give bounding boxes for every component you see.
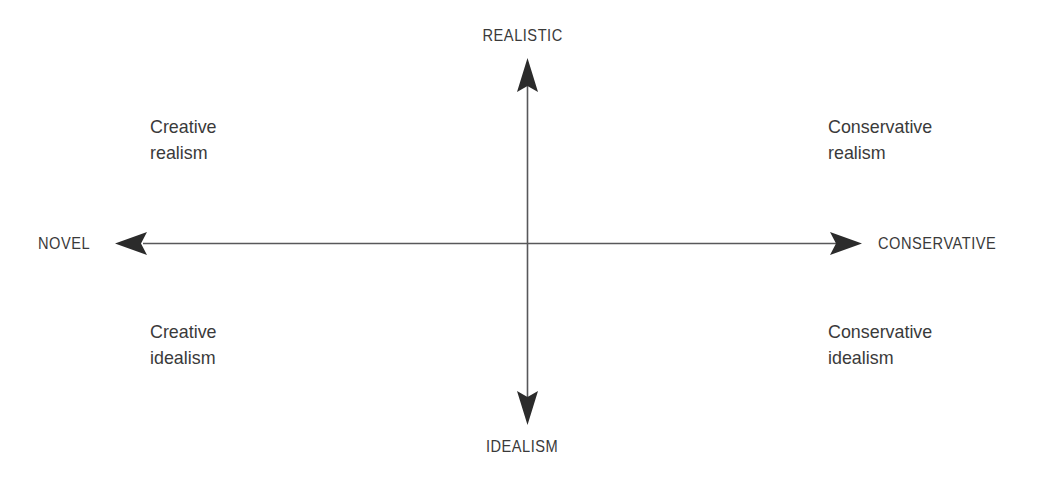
- left-arrowhead-icon: [115, 232, 147, 255]
- quadrant-label-line1: Conservative: [828, 319, 932, 345]
- quadrant-label-line2: idealism: [150, 345, 217, 371]
- quadrant-label-top-right: Conservative realism: [828, 114, 932, 166]
- quadrant-label-line2: realism: [150, 140, 217, 166]
- quadrant-diagram: REALISTIC IDEALISM NOVEL CONSERVATIVE Cr…: [0, 0, 1049, 480]
- axis-label-right: CONSERVATIVE: [878, 234, 996, 254]
- quadrant-label-line1: Conservative: [828, 114, 932, 140]
- axis-label-top: REALISTIC: [483, 26, 563, 46]
- quadrant-label-line1: Creative: [150, 319, 217, 345]
- axis-label-left: NOVEL: [38, 234, 90, 254]
- quadrant-label-line2: idealism: [828, 345, 932, 371]
- axis-label-bottom: IDEALISM: [486, 437, 558, 457]
- quadrant-label-bottom-right: Conservative idealism: [828, 319, 932, 371]
- quadrant-label-bottom-left: Creative idealism: [150, 319, 217, 371]
- quadrant-label-line1: Creative: [150, 114, 217, 140]
- quadrant-label-top-left: Creative realism: [150, 114, 217, 166]
- quadrant-label-line2: realism: [828, 140, 932, 166]
